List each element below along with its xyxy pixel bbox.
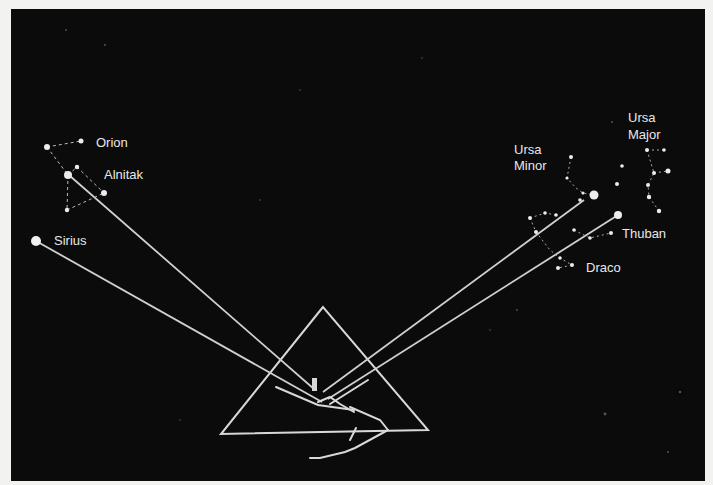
star xyxy=(615,182,619,186)
star xyxy=(652,171,656,175)
diagram-canvas: Orion Alnitak Sirius Ursa Minor xyxy=(0,0,713,485)
star xyxy=(556,266,560,270)
kings-chamber xyxy=(312,378,317,391)
star xyxy=(609,231,613,235)
kochab-star xyxy=(590,191,599,200)
star xyxy=(44,144,50,150)
star xyxy=(645,148,649,152)
star xyxy=(647,195,651,199)
ursa-major-label-2: Major xyxy=(628,127,661,142)
star xyxy=(79,139,84,144)
ursa-minor-label-1: Ursa xyxy=(514,142,542,157)
star xyxy=(662,148,666,152)
thuban-star xyxy=(614,211,622,219)
star xyxy=(565,176,568,179)
star xyxy=(101,190,107,196)
star xyxy=(620,164,624,168)
star xyxy=(569,155,573,159)
ursa-major-label-1: Ursa xyxy=(628,110,656,125)
thuban-label: Thuban xyxy=(622,226,666,241)
star xyxy=(646,183,650,187)
star xyxy=(543,211,547,215)
star xyxy=(588,236,592,240)
star xyxy=(528,216,532,220)
star xyxy=(75,165,79,169)
sirius-label: Sirius xyxy=(54,233,87,248)
orion-label: Orion xyxy=(96,135,128,150)
star xyxy=(570,263,574,267)
star xyxy=(572,228,576,232)
star xyxy=(534,230,538,234)
star xyxy=(558,256,562,260)
star xyxy=(666,169,671,174)
star xyxy=(554,213,558,217)
alnitak-star xyxy=(64,171,72,179)
star xyxy=(578,198,582,202)
alnitak-label: Alnitak xyxy=(104,167,144,182)
star xyxy=(581,191,584,194)
sirius-star xyxy=(31,236,41,246)
ursa-minor-label-2: Minor xyxy=(514,158,547,173)
star xyxy=(657,209,661,213)
draco-label: Draco xyxy=(586,260,621,275)
star xyxy=(65,208,69,212)
